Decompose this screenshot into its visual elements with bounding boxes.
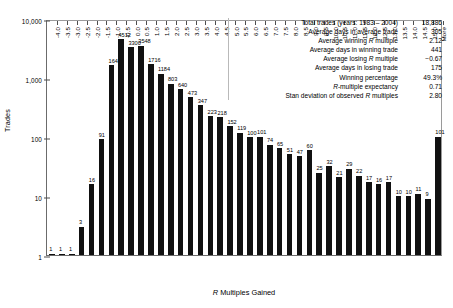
bar-value-label: 51 [287, 148, 293, 154]
bar: 11 [415, 194, 421, 255]
bar-column: 640 [178, 19, 184, 255]
bar-column: 1 [69, 19, 75, 255]
bar-value-label: 100 [247, 131, 256, 137]
bar-column: 347 [198, 19, 204, 255]
x-tick-label: -4.0 [54, 27, 61, 38]
bar: 1 [59, 254, 65, 255]
bar-column: 4512 [118, 19, 124, 255]
x-tick-mark [205, 21, 206, 25]
bar: 4512 [118, 39, 124, 255]
bar: 101 [257, 137, 263, 255]
bar: 1184 [158, 74, 164, 255]
x-tick-label: 4.0 [213, 27, 220, 36]
y-axis-title: Trades [3, 109, 12, 132]
bar-column: 1642 [109, 19, 115, 255]
bar: 29 [346, 169, 352, 255]
bar-value-label: 32 [326, 160, 332, 166]
stats-row: Average days in winning trade441 [233, 45, 442, 54]
bar-column: 218 [217, 19, 223, 255]
bar-value-label: 3 [79, 220, 82, 226]
bar-value-label: 473 [188, 91, 197, 97]
bar: 91 [99, 139, 105, 255]
bar-value-label: 74 [267, 138, 273, 144]
bar: 223 [208, 116, 214, 255]
bar-value-label: 22 [356, 169, 362, 175]
stats-value: 18,886 [398, 18, 442, 27]
bar-value-label: 803 [168, 77, 177, 83]
x-tick-mark [176, 21, 177, 25]
bar: 10 [396, 196, 402, 255]
bar: 1 [69, 254, 75, 255]
x-tick-label: 1.5 [163, 27, 170, 36]
stats-label: Stan deviation of observed R multiples [285, 91, 398, 100]
bar: 3548 [138, 46, 144, 255]
bar-value-label: 9 [425, 192, 428, 198]
stats-label: Average days in average trade [308, 27, 398, 36]
bar: 3300 [128, 47, 134, 255]
x-tick-label: -2.5 [84, 27, 91, 38]
bar-value-label: 60 [307, 144, 313, 150]
bar-column: 1184 [158, 19, 164, 255]
x-tick-mark [106, 21, 107, 25]
bar: 218 [217, 117, 223, 255]
bar-column: 803 [168, 19, 174, 255]
y-tick-mark [44, 257, 50, 258]
x-tick-mark [116, 21, 117, 25]
x-tick-label: -2.0 [94, 27, 101, 38]
stats-value: 441 [398, 45, 442, 54]
x-tick-mark [186, 21, 187, 25]
x-tick-mark [67, 21, 68, 25]
x-tick-label: -3.5 [64, 27, 71, 38]
stats-row: Average days in losing trade175 [233, 63, 442, 72]
x-tick-label: 0.5 [143, 27, 150, 36]
bar-value-label: 223 [208, 110, 217, 116]
bar-column: 3 [79, 19, 85, 255]
bar: 60 [307, 150, 313, 255]
bar: 65 [277, 148, 283, 255]
bar: 101 [435, 137, 441, 255]
stats-label: R-multiple expectancy [333, 82, 398, 91]
bar: 47 [297, 156, 303, 255]
x-tick-label: 2.5 [183, 27, 190, 36]
bar: 32 [326, 166, 332, 255]
bar-value-label: 218 [217, 111, 226, 117]
x-tick-mark [126, 21, 127, 25]
x-tick-label: -1.0 [114, 27, 121, 38]
x-tick-mark [215, 21, 216, 25]
bar: 3 [79, 227, 85, 255]
bar: 51 [287, 154, 293, 255]
bar: 347 [198, 105, 204, 255]
x-tick-mark [146, 21, 147, 25]
stats-row: Average winning R multiple2.12 [233, 36, 442, 45]
bar-value-label: 47 [297, 150, 303, 156]
stats-row: Stan deviation of observed R multiples2.… [233, 91, 442, 100]
x-tick-mark [77, 21, 78, 25]
x-tick-label: -0.5 [124, 27, 131, 38]
bar: 640 [178, 89, 184, 255]
stats-value: 49.3% [398, 73, 442, 82]
stats-label: Total trades (years: 1983 – 2004) [301, 18, 398, 27]
bar: 119 [237, 133, 243, 255]
bar: 17 [386, 182, 392, 255]
x-tick-label: 1.0 [153, 27, 160, 36]
bar-value-label: 1 [59, 247, 62, 253]
stats-label: Average days in winning trade [310, 45, 398, 54]
x-tick-label: 2.0 [173, 27, 180, 36]
stats-label: Average days in losing trade [315, 63, 398, 72]
bar: 152 [227, 126, 233, 255]
stats-value: −0.67 [398, 54, 442, 63]
bar-value-label: 65 [277, 142, 283, 148]
bar-value-label: 17 [386, 176, 392, 182]
bar: 1 [49, 254, 55, 255]
stats-label: Winning percentage [339, 73, 398, 82]
bar-value-label: 10 [396, 190, 402, 196]
bar-value-label: 119 [237, 126, 246, 132]
bar-column: 16 [89, 19, 95, 255]
bar-value-label: 25 [316, 166, 322, 172]
x-tick-mark [136, 21, 137, 25]
bar-value-label: 101 [257, 130, 266, 136]
stats-row: Average losing R multiple−0.67 [233, 54, 442, 63]
stats-value: 2.80 [398, 91, 442, 100]
x-tick-mark [57, 21, 58, 25]
bar: 22 [356, 176, 362, 255]
